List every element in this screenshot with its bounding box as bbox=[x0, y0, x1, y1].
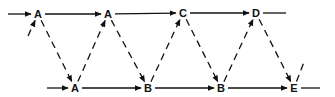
node-b3-b: B bbox=[217, 82, 225, 94]
nodes: AACDABBE bbox=[34, 7, 298, 94]
dashed-arrow-b2-to-t3 bbox=[151, 19, 180, 81]
state-lattice-diagram: AACDABBE bbox=[0, 0, 335, 97]
node-t4-d: D bbox=[252, 7, 260, 19]
dashed-arrow-b3-to-t4 bbox=[224, 19, 253, 81]
edges bbox=[8, 13, 320, 88]
node-t3-c: C bbox=[179, 7, 187, 19]
node-b4-e: E bbox=[290, 82, 297, 94]
node-b1-a: A bbox=[71, 82, 79, 94]
node-t2-a: A bbox=[104, 8, 112, 20]
node-t1-a: A bbox=[34, 8, 42, 20]
dashed-arrow-t3-to-b3 bbox=[186, 19, 218, 82]
dashed-arrow-b4-to-out-diag bbox=[297, 62, 304, 81]
dashed-arrow-t4-to-b4 bbox=[259, 19, 291, 82]
node-b2-b: B bbox=[144, 82, 152, 94]
solid-arrow-t2-to-t3 bbox=[115, 13, 176, 14]
dashed-arrow-in-diag-to-t1 bbox=[28, 20, 35, 36]
dashed-arrow-b1-to-t2 bbox=[78, 20, 105, 81]
dashed-arrow-t1-to-b1 bbox=[41, 20, 72, 81]
dashed-arrow-t2-to-b2 bbox=[111, 20, 144, 82]
